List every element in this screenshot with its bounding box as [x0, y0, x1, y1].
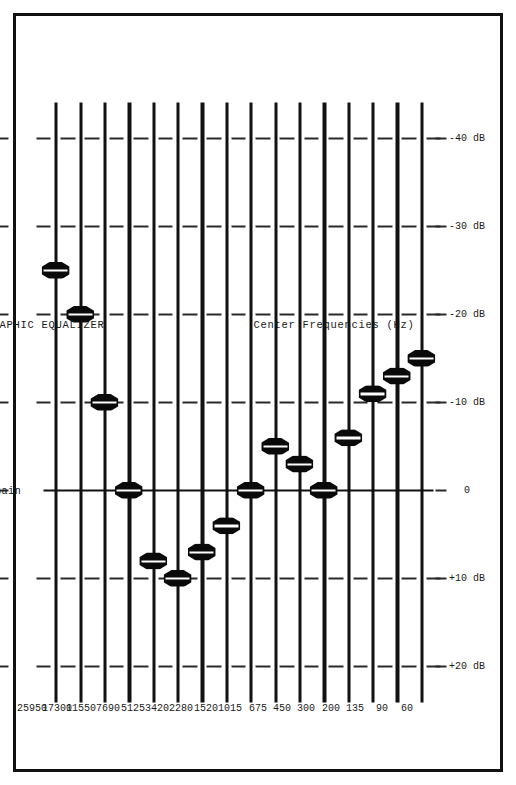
eq-band-row[interactable]: 3420	[166, 103, 190, 703]
band-frequency-label: 1520	[194, 703, 218, 714]
db-scale-label: +10 dB	[449, 573, 485, 584]
db-scale-tick	[0, 226, 9, 228]
eq-band-slider-knob[interactable]	[237, 482, 265, 499]
eq-band-row[interactable]: 11550	[92, 103, 116, 703]
db-scale-label: -30 dB	[449, 221, 485, 232]
eq-band-slider-knob[interactable]	[139, 552, 167, 569]
eq-band-rail[interactable]	[225, 103, 228, 703]
eq-band-row[interactable]: 675	[263, 103, 287, 703]
eq-band-rail[interactable]	[347, 103, 350, 703]
db-scale-tick	[0, 402, 9, 404]
band-frequency-label: 90	[376, 703, 388, 714]
db-scale-tick	[0, 578, 9, 580]
eq-band-row[interactable]: 25950	[44, 103, 68, 703]
eq-band-rail[interactable]	[420, 103, 423, 703]
db-scale-tick	[436, 490, 447, 492]
eq-band-slider-knob[interactable]	[188, 544, 216, 561]
band-frequency-label: 3420	[145, 703, 169, 714]
band-frequency-label: 1015	[218, 703, 242, 714]
eq-band-rail[interactable]	[250, 103, 253, 703]
eq-band-slider-knob[interactable]	[164, 570, 192, 587]
master-gain-title: Master Gain	[0, 486, 21, 497]
eq-band-slider-knob[interactable]	[90, 394, 118, 411]
eq-band-slider-knob[interactable]	[383, 368, 411, 385]
db-scale-label: 0	[464, 485, 470, 496]
eq-band-rail[interactable]	[372, 103, 375, 703]
db-scale-tick	[436, 314, 447, 316]
eq-band-slider-knob[interactable]	[115, 482, 143, 499]
eq-band-slider-knob[interactable]	[42, 262, 70, 279]
eq-band-rail[interactable]	[201, 103, 204, 703]
eq-band-slider-knob[interactable]	[261, 438, 289, 455]
db-scale-tick	[0, 138, 9, 140]
db-scale-label: -10 dB	[449, 397, 485, 408]
db-scale-tick	[436, 402, 447, 404]
db-scale-bottom: +20 dB+10 dB0-10 dB-20 dB-30 dB-40 dB	[436, 103, 482, 703]
eq-band-row[interactable]: 7690	[117, 103, 141, 703]
band-frequency-label: 675	[249, 703, 267, 714]
eq-band-row[interactable]: 5125	[141, 103, 165, 703]
eq-band-row[interactable]: 90	[385, 103, 409, 703]
db-scale-tick	[436, 666, 447, 668]
eq-band-row[interactable]: 60	[409, 103, 433, 703]
eq-band-slider-knob[interactable]	[334, 429, 362, 446]
eq-band-rail[interactable]	[323, 103, 326, 703]
eq-band-row[interactable]: 135	[361, 103, 385, 703]
db-scale-tick	[436, 226, 447, 228]
eq-band-slider-knob[interactable]	[407, 350, 435, 367]
band-frequency-label: 200	[322, 703, 340, 714]
band-frequency-label: 450	[273, 703, 291, 714]
eq-band-row[interactable]: 450	[287, 103, 311, 703]
eq-band-slider-knob[interactable]	[310, 482, 338, 499]
band-frequency-label: 60	[401, 703, 413, 714]
eq-band-rail[interactable]	[177, 103, 180, 703]
band-frequency-label: 135	[346, 703, 364, 714]
db-scale-label: +20 dB	[449, 661, 485, 672]
band-frequency-label: 7690	[96, 703, 120, 714]
eq-band-slider-knob[interactable]	[212, 517, 240, 534]
eq-band-rail[interactable]	[396, 103, 399, 703]
db-scale-tick	[436, 138, 447, 140]
eq-band-slider-knob[interactable]	[359, 385, 387, 402]
equalizer-faceplate: HALF-OCTAVE GRAPHIC EQUALIZER Center Fre…	[13, 13, 503, 772]
band-frequency-label: 2280	[169, 703, 193, 714]
eq-band-rail[interactable]	[55, 103, 58, 703]
slider-grid: 2595017300115507690512534202280152010156…	[44, 103, 434, 703]
eq-band-row[interactable]: 200	[336, 103, 360, 703]
faceplate-rotated-stage: HALF-OCTAVE GRAPHIC EQUALIZER Center Fre…	[16, 32, 476, 761]
eq-band-rail[interactable]	[274, 103, 277, 703]
db-scale-tick	[0, 666, 9, 668]
db-scale-label: -40 dB	[449, 133, 485, 144]
eq-band-slider-knob[interactable]	[66, 306, 94, 323]
band-frequency-label: 5125	[121, 703, 145, 714]
eq-band-rail[interactable]	[79, 103, 82, 703]
eq-band-row[interactable]: 300	[312, 103, 336, 703]
eq-band-rail[interactable]	[298, 103, 301, 703]
band-frequency-label: 11550	[66, 703, 96, 714]
db-scale-label: -20 dB	[449, 309, 485, 320]
db-scale-tick	[0, 314, 9, 316]
eq-band-rail[interactable]	[128, 103, 131, 703]
eq-band-rail[interactable]	[152, 103, 155, 703]
eq-band-row[interactable]: 17300	[68, 103, 92, 703]
eq-band-row[interactable]: 1015	[239, 103, 263, 703]
eq-band-row[interactable]: 2280	[190, 103, 214, 703]
db-scale-tick	[436, 578, 447, 580]
eq-band-slider-knob[interactable]	[285, 456, 313, 473]
eq-band-row[interactable]: 1520	[214, 103, 238, 703]
band-frequency-label: 300	[297, 703, 315, 714]
